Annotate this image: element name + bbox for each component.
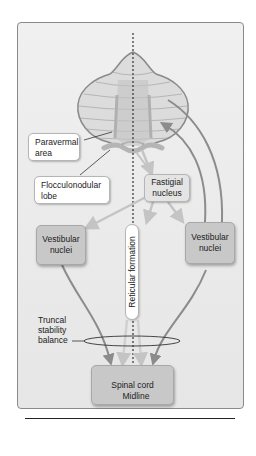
fastigial-nucleus-box: Fastigial nucleus [144,174,190,202]
truncal-stability-label: Truncal stability balance [38,315,78,345]
paravermal-area-label: Paravermal area [28,133,80,161]
truncal-stability-ring [84,336,180,346]
vestibular-nuclei-right-box: Vestibular nuclei [185,222,235,264]
midline-label: Midline [116,391,156,401]
reticular-formation-box: Reticular formation [125,224,139,320]
vestibular-nuclei-left-box: Vestibular nuclei [36,225,86,265]
reticular-formation-label: Reticular formation [127,236,137,307]
flocculonodular-lobe-label: Flocculonodular lobe [34,176,110,204]
bottom-rule [25,418,235,419]
